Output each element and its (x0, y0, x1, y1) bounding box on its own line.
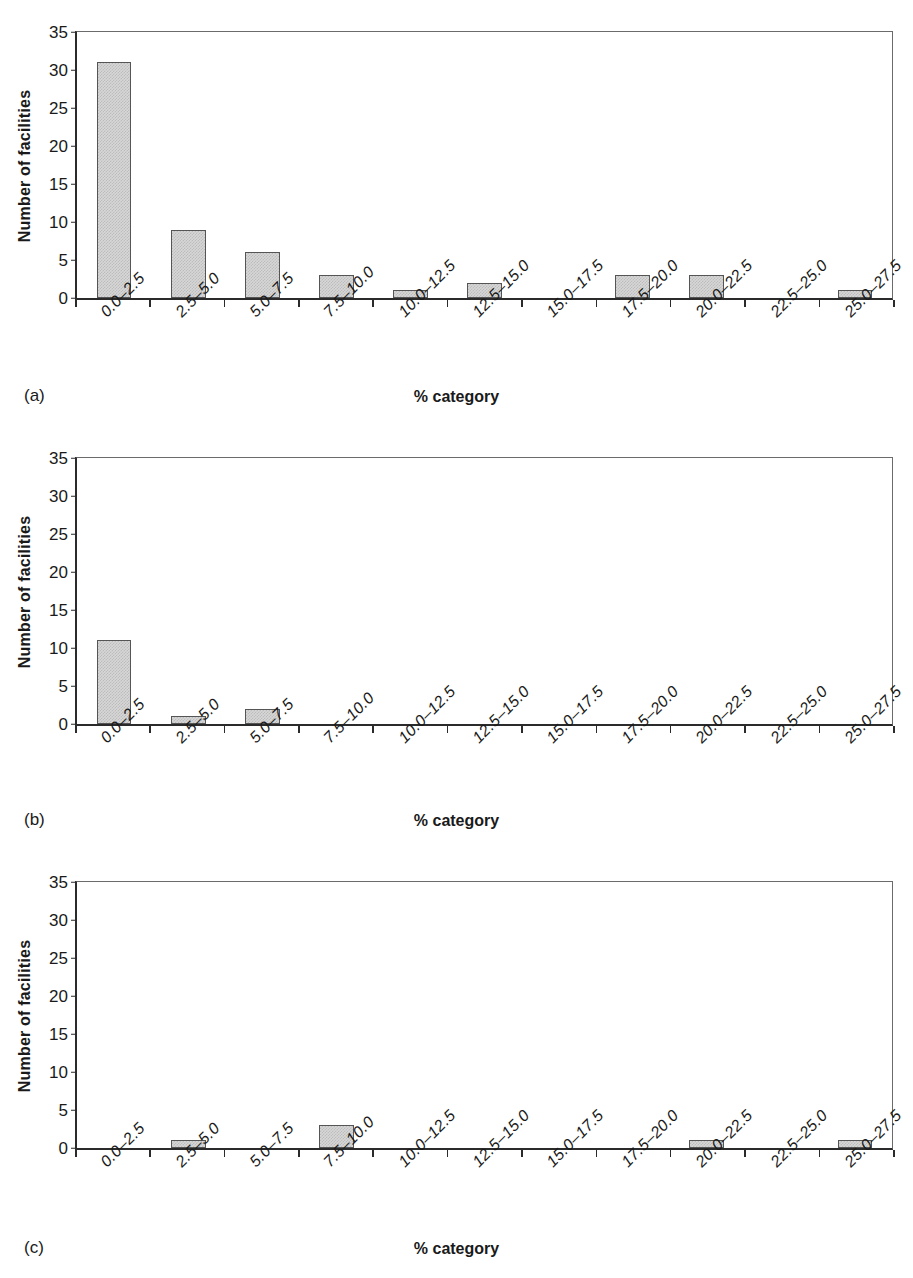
bar (97, 62, 132, 298)
y-axis-title-a: Number of facilities (14, 31, 36, 300)
bar-slot (670, 32, 744, 298)
y-tick-label: 25 (49, 950, 77, 967)
x-tick-mark (819, 300, 821, 307)
x-tick-mark (893, 300, 895, 307)
bar-slot (373, 458, 447, 724)
bar-slot (77, 458, 151, 724)
bar-slot (299, 32, 373, 298)
x-tick-mark (372, 300, 374, 307)
y-tick-label: 30 (49, 912, 77, 929)
bar-slot (299, 458, 373, 724)
y-axis-title-text-a: Number of facilities (16, 89, 34, 241)
bar-slot (447, 32, 521, 298)
x-tick-mark (75, 1150, 77, 1157)
bar-slot (151, 32, 225, 298)
y-tick-label: 5 (59, 1102, 77, 1119)
x-tick-mark (596, 300, 598, 307)
x-tick-mark (224, 726, 226, 733)
bar-slot (225, 458, 299, 724)
x-tick-mark (447, 1150, 449, 1157)
x-tick-mark (819, 726, 821, 733)
x-tick-mark (149, 1150, 151, 1157)
x-tick-mark (372, 1150, 374, 1157)
y-axis-title-c: Number of facilities (14, 881, 36, 1150)
x-tick-mark (149, 726, 151, 733)
x-tick-mark (224, 300, 226, 307)
y-tick-label: 15 (49, 602, 77, 619)
x-tick-mark (372, 726, 374, 733)
y-tick-label: 10 (49, 1064, 77, 1081)
y-tick-label: 25 (49, 100, 77, 117)
y-axis-title-text-b: Number of facilities (16, 515, 34, 667)
panel-c: Number of facilities 05101520253035 0.0–… (0, 850, 913, 1278)
plot-wrap-c: Number of facilities 05101520253035 0.0–… (0, 850, 913, 1165)
y-axis-title-text-c: Number of facilities (16, 939, 34, 1091)
bar-slot (670, 458, 744, 724)
bar-slot (447, 458, 521, 724)
bar-slot (299, 882, 373, 1148)
plot-area-a: 05101520253035 (75, 31, 893, 300)
x-tick-mark (744, 1150, 746, 1157)
bars-b (77, 458, 892, 724)
y-tick-label: 15 (49, 1026, 77, 1043)
x-tick-mark (298, 300, 300, 307)
plot-wrap-a: Number of facilities 05101520253035 0.0–… (0, 0, 913, 315)
bar-slot (225, 882, 299, 1148)
y-tick-label: 5 (59, 678, 77, 695)
x-axis-title-a: % category (0, 388, 913, 406)
x-tick-mark (447, 300, 449, 307)
y-tick-label: 10 (49, 640, 77, 657)
bar-slot (522, 458, 596, 724)
x-tick-mark (521, 300, 523, 307)
panel-a: Number of facilities 05101520253035 0.0–… (0, 0, 913, 426)
figure-three-histograms: Number of facilities 05101520253035 0.0–… (0, 0, 913, 1278)
x-tick-mark (744, 726, 746, 733)
x-tick-mark (75, 300, 77, 307)
bar-slot (596, 32, 670, 298)
y-tick-label: 5 (59, 252, 77, 269)
y-tick-label: 30 (49, 488, 77, 505)
bar-slot (744, 32, 818, 298)
bar-slot (596, 458, 670, 724)
bar-slot (77, 882, 151, 1148)
panel-b: Number of facilities 05101520253035 0.0–… (0, 426, 913, 850)
bar-slot (818, 458, 892, 724)
y-tick-label: 35 (49, 874, 77, 891)
x-tick-mark (298, 726, 300, 733)
bar-slot (818, 882, 892, 1148)
x-tick-mark (596, 1150, 598, 1157)
y-tick-label: 15 (49, 176, 77, 193)
bar-slot (596, 882, 670, 1148)
plot-area-c: 05101520253035 (75, 881, 893, 1150)
y-tick-label: 35 (49, 450, 77, 467)
bars-c (77, 882, 892, 1148)
x-tick-mark (670, 1150, 672, 1157)
x-tick-mark (447, 726, 449, 733)
x-axis-title-b: % category (0, 812, 913, 830)
x-tick-mark (521, 1150, 523, 1157)
y-tick-label: 25 (49, 526, 77, 543)
bar-slot (522, 32, 596, 298)
x-tick-mark (819, 1150, 821, 1157)
x-tick-mark (893, 1150, 895, 1157)
y-tick-label: 35 (49, 24, 77, 41)
bar-slot (818, 32, 892, 298)
plot-wrap-b: Number of facilities 05101520253035 0.0–… (0, 426, 913, 741)
bar-slot (77, 32, 151, 298)
x-tick-mark (224, 1150, 226, 1157)
x-tick-mark (521, 726, 523, 733)
x-tick-mark (670, 300, 672, 307)
bar-slot (151, 458, 225, 724)
bar-slot (522, 882, 596, 1148)
bar-slot (744, 882, 818, 1148)
bar-slot (151, 882, 225, 1148)
x-tick-mark (596, 726, 598, 733)
y-tick-label: 20 (49, 138, 77, 155)
x-tick-mark (670, 726, 672, 733)
y-tick-label: 20 (49, 564, 77, 581)
bar-slot (373, 882, 447, 1148)
x-tick-mark (75, 726, 77, 733)
bar-slot (744, 458, 818, 724)
y-tick-label: 30 (49, 62, 77, 79)
y-axis-title-b: Number of facilities (14, 457, 36, 726)
